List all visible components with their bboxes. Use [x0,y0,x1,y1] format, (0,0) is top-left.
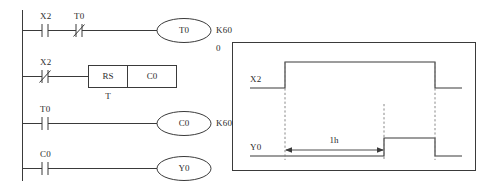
duration-annotation-label: 1h [318,136,350,145]
coil-label-y0: Y0 [172,164,196,173]
event-guide-lines [285,62,435,160]
preset-label-c0-line1: K60 [216,119,232,128]
contact-label-x2-rung2: X2 [40,58,51,67]
block-label-rs: RS [96,72,120,81]
waveform-y0 [250,138,462,156]
contact-t0-no [42,117,48,130]
contact-label-t0-rung3: T0 [40,105,50,114]
contact-c0-no [42,162,48,175]
block-label-c0: C0 [140,72,164,81]
preset-label-t0-line1: K60 [216,26,232,35]
contact-label-x2-rung1: X2 [40,12,51,21]
waveform-x2 [250,62,462,88]
duration-arrow-1h [285,147,384,152]
contact-x2-no [42,24,48,37]
preset-label-t0-line2: 0 [216,44,221,53]
ladder-timing-diagram: X2 T0 T0 K60 0 X2 RS C0 T T0 C0 K60 C0 Y… [0,0,498,192]
coil-label-t0: T0 [172,26,196,35]
contact-label-c0-rung4: C0 [40,150,51,159]
contact-label-t0-rung1: T0 [74,12,84,21]
waveform-label-y0: Y0 [250,143,261,152]
waveform-label-x2: X2 [250,75,261,84]
diagram-graphics [0,0,498,192]
coil-label-c0: C0 [172,119,196,128]
block-under-label-t: T [96,92,120,101]
